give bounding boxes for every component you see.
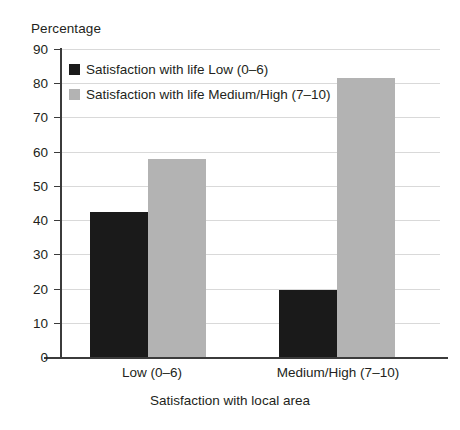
legend-label-high: Satisfaction with life Medium/High (7–10… [86, 87, 331, 102]
legend-item-low: Satisfaction with life Low (0–6) [68, 58, 368, 81]
y-tick [54, 186, 61, 187]
y-tick-label: 50 [20, 180, 48, 194]
y-tick [54, 152, 61, 153]
legend-swatch-low-icon [68, 63, 81, 76]
bar-high-group1 [148, 159, 206, 357]
y-tick [54, 254, 61, 255]
y-tick [54, 83, 61, 84]
y-tick-label: 40 [20, 214, 48, 228]
legend-item-high: Satisfaction with life Medium/High (7–10… [68, 83, 368, 106]
y-tick [54, 49, 61, 50]
y-tick [54, 117, 61, 118]
x-tick-label-group1: Low (0–6) [90, 365, 214, 380]
bar-low-group1 [90, 212, 148, 357]
x-axis-title: Satisfaction with local area [0, 393, 460, 408]
legend-label-low: Satisfaction with life Low (0–6) [86, 62, 268, 77]
y-tick-label: 60 [20, 146, 48, 160]
y-tick-label: 20 [20, 283, 48, 297]
y-axis-line [60, 48, 62, 358]
x-tick-label-group2: Medium/High (7–10) [263, 365, 413, 380]
bar-high-group2 [337, 78, 395, 357]
y-tick-label: 70 [20, 111, 48, 125]
y-tick-label: 10 [20, 317, 48, 331]
y-tick [54, 323, 61, 324]
y-tick-label: 80 [20, 77, 48, 91]
bar-low-group2 [279, 290, 337, 357]
y-tick-label: 30 [20, 248, 48, 262]
y-tick [54, 289, 61, 290]
gridline [62, 49, 440, 50]
y-tick [54, 220, 61, 221]
bar-chart: Percentage 90 80 70 60 [0, 0, 460, 430]
y-tick-label: 90 [20, 43, 48, 57]
legend-swatch-high-icon [68, 88, 81, 101]
chart-legend: Satisfaction with life Low (0–6) Satisfa… [68, 58, 368, 108]
y-tick [54, 357, 61, 358]
y-axis-title: Percentage [31, 21, 101, 36]
y-tick-label: 0 [20, 351, 48, 365]
x-axis-line [44, 357, 448, 359]
